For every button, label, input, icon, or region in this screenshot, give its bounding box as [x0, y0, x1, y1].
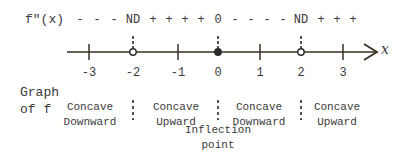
region-line2: Upward [314, 115, 360, 130]
concavity-region: ConcaveUpward [314, 100, 360, 130]
open-circle-icon [298, 49, 304, 55]
tick-label: 1 [256, 66, 263, 80]
axis-variable-label: x [381, 41, 389, 57]
graph-of-f-label: Graph of f [20, 84, 59, 118]
concavity-region: ConcaveDownward [64, 100, 117, 130]
graph-label-line1: Graph [20, 84, 59, 101]
region-line1: Concave [314, 100, 360, 115]
open-circle-icon [130, 49, 136, 55]
region-line1: Concave [64, 100, 117, 115]
filled-dot-icon [215, 49, 221, 55]
region-line2: Downward [64, 115, 117, 130]
region-line1: Concave [233, 100, 286, 115]
inflection-point-label: Inflection point [185, 123, 251, 153]
tick-label: 2 [297, 66, 304, 80]
tick-label: 3 [339, 66, 346, 80]
inflection-line2: point [185, 138, 251, 153]
tick-label: -2 [126, 66, 140, 80]
tick-label: 0 [214, 66, 221, 80]
region-line1: Concave [153, 100, 199, 115]
graph-label-line2: of f [20, 101, 59, 118]
tick-label: -3 [82, 66, 96, 80]
inflection-line1: Inflection [185, 123, 251, 138]
tick-label: -1 [171, 66, 185, 80]
